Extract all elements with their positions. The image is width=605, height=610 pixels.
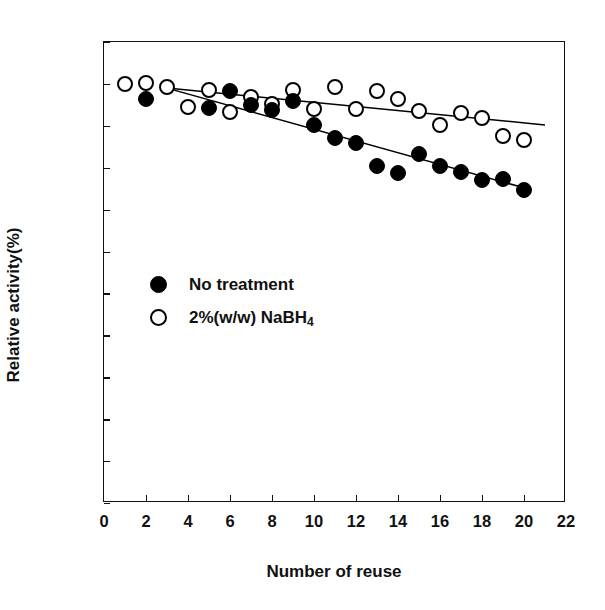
data-point-no-treatment xyxy=(390,165,406,181)
x-axis-tick xyxy=(482,495,483,501)
x-axis-tick xyxy=(314,495,315,501)
x-axis-tick-label: 8 xyxy=(267,512,276,531)
legend-item-no-treatment: No treatment xyxy=(150,268,314,301)
y-axis-tick xyxy=(104,377,110,378)
x-axis-tick xyxy=(230,495,231,501)
data-point-nabh4 xyxy=(138,75,154,91)
open-circle-icon xyxy=(150,309,167,326)
x-axis-tick-label: 10 xyxy=(305,512,323,531)
data-point-no-treatment xyxy=(285,93,301,109)
x-axis-tick-label: 20 xyxy=(515,512,533,531)
data-point-nabh4 xyxy=(306,101,322,117)
data-point-nabh4 xyxy=(474,110,490,126)
x-axis-tick xyxy=(188,495,189,501)
legend-label-no-treatment: No treatment xyxy=(189,275,294,295)
data-point-nabh4 xyxy=(348,101,364,117)
legend-label-nabh4-text: 2%(w/w) NaBH xyxy=(189,308,307,327)
data-point-nabh4 xyxy=(411,103,427,119)
data-point-no-treatment xyxy=(306,117,322,133)
x-axis-tick xyxy=(440,495,441,501)
data-point-no-treatment xyxy=(243,97,259,113)
x-axis-tick-label: 2 xyxy=(141,512,150,531)
legend-label-nabh4-subscript: 4 xyxy=(307,315,314,329)
y-axis-tick xyxy=(104,335,110,336)
y-axis-tick xyxy=(104,42,110,43)
x-axis-tick xyxy=(272,495,273,501)
data-point-nabh4 xyxy=(516,132,532,148)
data-point-no-treatment xyxy=(369,158,385,174)
x-axis-title: Number of reuse xyxy=(266,562,401,582)
data-point-nabh4 xyxy=(390,91,406,107)
x-axis-tick-label: 14 xyxy=(389,512,407,531)
x-axis-tick-label: 0 xyxy=(99,512,108,531)
data-point-nabh4 xyxy=(159,79,175,95)
data-point-nabh4 xyxy=(180,99,196,115)
y-axis-tick xyxy=(104,503,110,504)
data-point-no-treatment xyxy=(348,135,364,151)
y-axis-tick xyxy=(104,293,110,294)
data-point-no-treatment xyxy=(453,164,469,180)
y-axis-tick xyxy=(104,252,110,253)
chart-legend: No treatment 2%(w/w) NaBH4 xyxy=(150,268,314,334)
data-point-nabh4 xyxy=(453,105,469,121)
x-axis-tick xyxy=(398,495,399,501)
y-axis-tick xyxy=(104,419,110,420)
trendline-no-treatment xyxy=(167,88,524,188)
y-axis-tick xyxy=(104,210,110,211)
data-point-nabh4 xyxy=(201,82,217,98)
data-point-no-treatment xyxy=(495,171,511,187)
filled-circle-icon xyxy=(150,276,167,293)
data-point-nabh4 xyxy=(117,76,133,92)
y-axis-tick xyxy=(104,84,110,85)
data-point-no-treatment xyxy=(138,91,154,107)
x-axis-tick xyxy=(524,495,525,501)
x-axis-tick-label: 18 xyxy=(473,512,491,531)
data-point-no-treatment xyxy=(201,100,217,116)
data-point-no-treatment xyxy=(264,102,280,118)
y-axis-tick xyxy=(104,461,110,462)
x-axis-tick-label: 4 xyxy=(183,512,192,531)
data-point-nabh4 xyxy=(222,104,238,120)
data-point-no-treatment xyxy=(516,182,532,198)
x-axis-tick xyxy=(146,495,147,501)
data-point-no-treatment xyxy=(432,158,448,174)
x-axis-tick-label: 22 xyxy=(557,512,575,531)
data-point-no-treatment xyxy=(474,172,490,188)
data-point-no-treatment xyxy=(327,130,343,146)
y-axis-tick xyxy=(104,168,110,169)
y-axis-tick xyxy=(104,126,110,127)
data-point-no-treatment xyxy=(222,83,238,99)
data-point-nabh4 xyxy=(369,83,385,99)
chart-figure: Relative activity(%) Number of reuse 010… xyxy=(0,0,605,610)
data-point-no-treatment xyxy=(411,146,427,162)
data-point-nabh4 xyxy=(495,128,511,144)
legend-label-nabh4: 2%(w/w) NaBH4 xyxy=(189,308,314,328)
legend-item-nabh4: 2%(w/w) NaBH4 xyxy=(150,301,314,334)
data-point-nabh4 xyxy=(327,79,343,95)
data-point-nabh4 xyxy=(432,117,448,133)
y-axis-title: Relative activity(%) xyxy=(4,228,24,383)
x-axis-tick-label: 16 xyxy=(431,512,449,531)
x-axis-tick-label: 6 xyxy=(225,512,234,531)
x-axis-tick xyxy=(356,495,357,501)
x-axis-tick-label: 12 xyxy=(347,512,365,531)
